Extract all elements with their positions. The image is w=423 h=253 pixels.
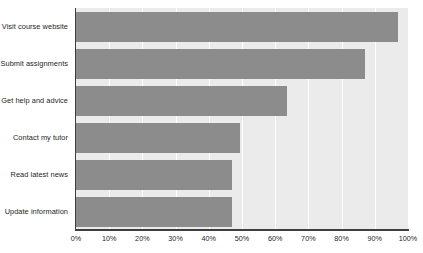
- bar-row: [76, 123, 408, 153]
- plot-area: [76, 8, 408, 230]
- category-label: Get help and advice: [1, 97, 72, 104]
- value-tick-label: 80%: [334, 234, 349, 243]
- y-axis-line: [75, 8, 76, 230]
- value-tick-label: 0%: [71, 234, 82, 243]
- category-label: Update information: [5, 208, 72, 215]
- bar-chart: Visit course websiteSubmit assignmentsGe…: [0, 0, 423, 253]
- value-tick-label: 70%: [301, 234, 316, 243]
- bar-row: [76, 12, 408, 42]
- bars-layer: [76, 8, 408, 230]
- category-label: Contact my tutor: [13, 134, 72, 141]
- bar-row: [76, 160, 408, 190]
- value-tick-label: 100%: [399, 234, 418, 243]
- bar-row: [76, 197, 408, 227]
- value-tick-label: 60%: [268, 234, 283, 243]
- value-axis: 0%10%20%30%40%50%60%70%80%90%100%: [76, 234, 408, 248]
- bar[interactable]: [76, 123, 240, 153]
- value-tick-label: 20%: [135, 234, 150, 243]
- bar-row: [76, 49, 408, 79]
- bar[interactable]: [76, 12, 398, 42]
- bar[interactable]: [76, 86, 287, 116]
- bar[interactable]: [76, 197, 232, 227]
- value-tick-label: 10%: [102, 234, 117, 243]
- bar[interactable]: [76, 49, 365, 79]
- category-axis: Visit course websiteSubmit assignmentsGe…: [0, 8, 72, 230]
- category-label: Read latest news: [11, 171, 73, 178]
- value-tick-label: 40%: [202, 234, 217, 243]
- bar[interactable]: [76, 160, 232, 190]
- category-label: Submit assignments: [1, 60, 72, 67]
- value-tick-label: 90%: [368, 234, 383, 243]
- category-label: Visit course website: [2, 23, 72, 30]
- gridline: [408, 8, 409, 230]
- value-tick-label: 50%: [235, 234, 250, 243]
- x-axis-line: [75, 229, 409, 231]
- value-tick-label: 30%: [168, 234, 183, 243]
- bar-row: [76, 86, 408, 116]
